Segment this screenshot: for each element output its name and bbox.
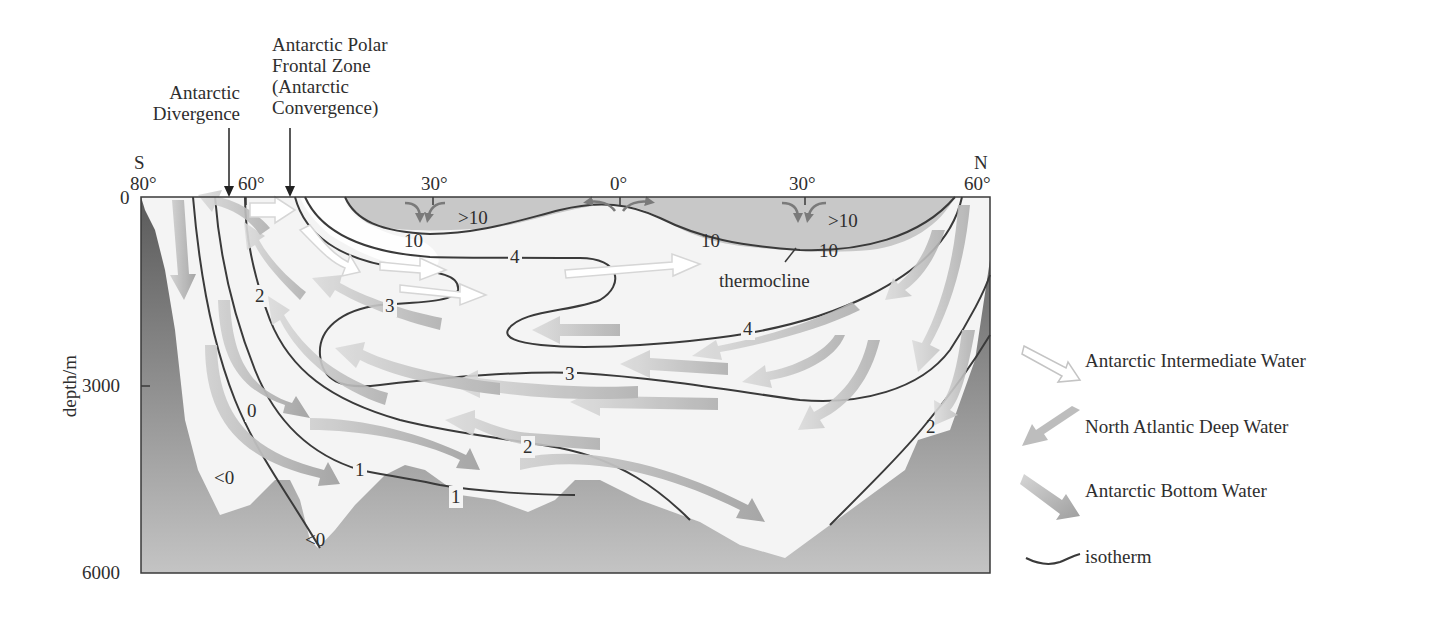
isotherm-label-0: 0 bbox=[245, 400, 259, 422]
isotherm-label-lt0b: <0 bbox=[305, 529, 325, 551]
isotherm-label-2c: 2 bbox=[926, 416, 936, 438]
legend-item-nadw: North Atlantic Deep Water bbox=[1020, 406, 1440, 450]
hollow-arrow-icon bbox=[1020, 340, 1084, 384]
isotherm-label-10a: 10 bbox=[404, 230, 423, 252]
legend-label-isotherm: isotherm bbox=[1085, 546, 1152, 568]
ocean-cross-section bbox=[0, 0, 1440, 629]
isotherm-label-3b: 3 bbox=[563, 363, 577, 385]
wavy-line-icon bbox=[1020, 536, 1084, 580]
isotherm-label-2a: 2 bbox=[253, 285, 267, 307]
isotherm-label-gt10b: >10 bbox=[828, 210, 858, 232]
grey-arrow-icon bbox=[1020, 406, 1084, 456]
legend-label-aabw: Antarctic Bottom Water bbox=[1085, 480, 1267, 502]
legend-item-aabw: Antarctic Bottom Water bbox=[1020, 470, 1440, 514]
annotation-arrows bbox=[229, 128, 290, 188]
isotherm-label-lt0a: <0 bbox=[214, 467, 234, 489]
convergence-arrowhead-icon bbox=[285, 186, 295, 197]
isotherm-label-4b: 4 bbox=[741, 318, 755, 340]
legend-label-nadw: North Atlantic Deep Water bbox=[1085, 416, 1288, 438]
legend-label-aaiw: Antarctic Intermediate Water bbox=[1085, 350, 1306, 372]
dark-grey-arrow-icon bbox=[1020, 470, 1084, 524]
isotherm-label-3a: 3 bbox=[383, 295, 397, 317]
legend-item-aaiw: Antarctic Intermediate Water bbox=[1020, 340, 1440, 384]
divergence-arrowhead-icon bbox=[224, 186, 234, 197]
isotherm-label-gt10a: >10 bbox=[458, 207, 488, 229]
thermocline-label: thermocline bbox=[719, 270, 810, 292]
isotherm-label-10b: 10 bbox=[701, 230, 720, 252]
isotherm-label-4a: 4 bbox=[508, 246, 522, 268]
legend-item-isotherm: isotherm bbox=[1020, 536, 1440, 580]
isotherm-label-10c: 10 bbox=[819, 240, 838, 262]
isotherm-label-1a: 1 bbox=[353, 459, 367, 481]
isotherm-label-1b: 1 bbox=[449, 486, 463, 508]
isotherm-label-2b: 2 bbox=[521, 436, 535, 458]
